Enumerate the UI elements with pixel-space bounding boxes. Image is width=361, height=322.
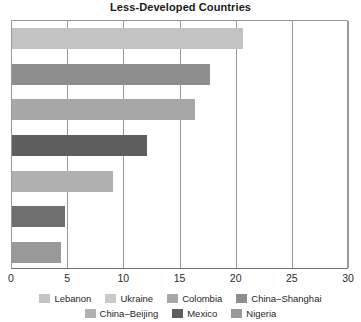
x-tick-label: 20 [230, 272, 242, 284]
legend-swatch-icon [105, 294, 116, 303]
bar-colombia [12, 99, 195, 120]
bar-row [12, 135, 147, 156]
legend-swatch-icon [167, 294, 178, 303]
legend-label: Mexico [187, 308, 217, 319]
bar-row [12, 206, 65, 227]
bar-mexico [12, 206, 65, 227]
x-tick-label: 15 [174, 272, 186, 284]
legend-item[interactable]: China–Shanghai [236, 293, 321, 304]
legend-label: China–Beijing [100, 308, 159, 319]
gridline-30 [348, 21, 349, 268]
x-tick-label: 30 [342, 272, 354, 284]
legend-swatch-icon [172, 309, 183, 318]
legend-row: China–BeijingMexicoNigeria [0, 306, 361, 321]
legend-item[interactable]: China–Beijing [85, 308, 159, 319]
chart-title: Less-Developed Countries [0, 1, 361, 13]
bars-layer [12, 21, 347, 268]
bar-china-beijing [12, 171, 113, 192]
plot-area [11, 20, 348, 269]
legend-row: LebanonUkraineColombiaChina–Shanghai [0, 291, 361, 306]
chart-legend: LebanonUkraineColombiaChina–ShanghaiChin… [0, 291, 361, 321]
legend-swatch-icon [231, 309, 242, 318]
legend-label: Nigeria [246, 308, 276, 319]
bar-chart: Less-Developed Countries 051015202530 Le… [0, 0, 361, 322]
x-tick-label: 0 [8, 272, 14, 284]
legend-swatch-icon [236, 294, 247, 303]
legend-item[interactable]: Nigeria [231, 308, 276, 319]
legend-label: Ukraine [120, 293, 153, 304]
bar-row [12, 64, 210, 85]
bar-china-shanghai [12, 135, 147, 156]
bar-row [12, 99, 195, 120]
legend-item[interactable]: Colombia [167, 293, 222, 304]
legend-label: Colombia [182, 293, 222, 304]
bar-ukraine [12, 64, 210, 85]
x-tick-label: 10 [117, 272, 129, 284]
legend-label: China–Shanghai [251, 293, 321, 304]
bar-row [12, 28, 243, 49]
x-tick-label: 5 [64, 272, 70, 284]
legend-item[interactable]: Mexico [172, 308, 217, 319]
legend-item[interactable]: Lebanon [39, 293, 91, 304]
bar-nigeria [12, 242, 61, 263]
bar-row [12, 171, 113, 192]
legend-swatch-icon [85, 309, 96, 318]
x-axis-tick-labels: 051015202530 [0, 272, 361, 288]
legend-swatch-icon [39, 294, 50, 303]
x-tick-label: 25 [286, 272, 298, 284]
bar-row [12, 242, 61, 263]
bar-lebanon [12, 28, 243, 49]
legend-item[interactable]: Ukraine [105, 293, 153, 304]
legend-label: Lebanon [54, 293, 91, 304]
